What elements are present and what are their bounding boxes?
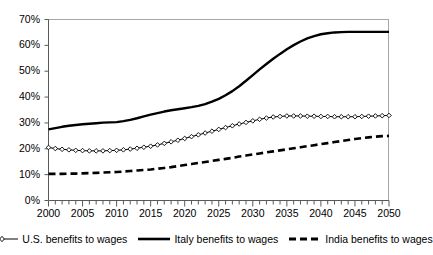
y-tick-label: 40%: [0, 91, 40, 102]
series-marker: [142, 145, 147, 150]
series-marker: [312, 114, 317, 119]
series-marker: [189, 134, 194, 139]
series-marker: [87, 149, 92, 154]
y-tick-label: 30%: [0, 117, 40, 128]
legend-swatch-dashed-thick: [288, 233, 322, 245]
series-marker: [80, 148, 85, 153]
series-line: [49, 115, 390, 150]
x-axis-ticks: [49, 201, 390, 207]
series-marker: [162, 141, 167, 146]
legend-swatch-solid-thick: [137, 233, 171, 245]
series-marker: [332, 114, 337, 119]
series-marker: [271, 115, 276, 120]
series-marker: [285, 114, 290, 119]
data-series: [46, 32, 391, 174]
series-marker: [387, 113, 392, 118]
series-marker: [305, 114, 310, 119]
legend-entry[interactable]: U.S. benefits to wages: [0, 233, 127, 245]
legend-entry[interactable]: Italy benefits to wages: [137, 233, 278, 245]
series-marker: [359, 114, 364, 119]
series-line: [49, 136, 390, 174]
series-marker: [346, 114, 351, 119]
series-line: [49, 32, 390, 129]
series-marker: [73, 148, 78, 153]
series-marker: [94, 149, 99, 154]
series-marker: [210, 129, 215, 134]
series-marker: [216, 127, 221, 132]
y-axis-ticks: [45, 20, 49, 201]
series-marker: [257, 117, 262, 122]
series-marker: [366, 114, 371, 119]
y-tick-label: 50%: [0, 65, 40, 76]
series-marker: [67, 148, 72, 153]
y-tick-label: 70%: [0, 14, 40, 25]
legend-label: India benefits to wages: [325, 233, 432, 245]
series-marker: [237, 122, 242, 127]
series-marker: [169, 140, 174, 145]
series-marker: [319, 114, 324, 119]
series-marker: [373, 114, 378, 119]
x-tick-label: 2050: [369, 208, 409, 219]
series-marker: [298, 114, 303, 119]
series-marker: [339, 114, 344, 119]
series-marker: [291, 114, 296, 119]
y-tick-label: 20%: [0, 143, 40, 154]
series-marker: [203, 131, 208, 136]
series-marker: [60, 147, 65, 152]
legend-label: U.S. benefits to wages: [22, 233, 127, 245]
series-marker: [53, 146, 58, 151]
series-marker: [230, 123, 235, 128]
series-marker: [380, 113, 385, 118]
series-marker: [121, 148, 126, 153]
series-marker: [223, 125, 228, 130]
series-marker: [196, 133, 201, 138]
y-tick-label: 0%: [0, 195, 40, 206]
legend-label: Italy benefits to wages: [174, 233, 278, 245]
series-marker: [264, 116, 269, 121]
series-marker: [128, 147, 133, 152]
series-marker: [155, 143, 160, 148]
series-marker: [148, 144, 153, 149]
series-marker: [244, 120, 249, 125]
series-marker: [135, 146, 140, 151]
series-marker: [353, 114, 358, 119]
legend-swatch-solid-thin-markers: [0, 233, 19, 245]
y-tick-label: 10%: [0, 169, 40, 180]
series-marker: [251, 119, 256, 124]
series-marker: [114, 148, 119, 153]
series-marker: [176, 138, 181, 143]
chart-legend: U.S. benefits to wagesItaly benefits to …: [0, 229, 418, 249]
series-marker: [325, 114, 330, 119]
legend-entry[interactable]: India benefits to wages: [288, 233, 432, 245]
series-marker: [278, 114, 283, 119]
series-marker: [182, 136, 187, 141]
series-marker: [101, 149, 106, 154]
axes: [49, 19, 390, 201]
series-marker: [107, 148, 112, 153]
y-tick-label: 60%: [0, 39, 40, 50]
